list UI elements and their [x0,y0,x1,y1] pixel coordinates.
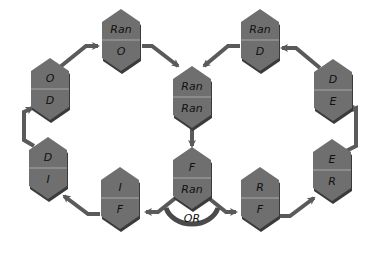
hex-node-ran-ran: RanRan [173,66,212,131]
hex-top-label: D [329,73,337,86]
nodes: RanRanFRanRanOODDIIFRanDDEERRF [29,9,353,232]
arrow-or-left [146,196,178,212]
hex-node-ran-d: RanD [241,9,280,74]
hex-top-label: R [256,181,264,194]
hex-top-label: Ran [181,80,202,93]
arrow-if-to-di [64,196,100,214]
hex-node-e-r: ER [313,139,352,204]
hex-node-d-i: DI [29,137,68,202]
or-label: OR [184,212,200,225]
arrow-od-to-rano [60,46,98,67]
hex-top-label: E [329,153,336,166]
cycle-diagram: OR RanRanFRanRanOODDIIFRanDDEERRF [0,0,380,253]
hex-bottom-label: E [330,95,337,108]
hex-bottom-label: Ran [181,102,202,115]
hex-top-label: Ran [249,23,270,36]
hex-node-r-f: RF [241,167,280,232]
hex-node-i-f: IF [101,167,140,232]
hex-bottom-label: F [117,203,124,216]
hex-bottom-label: F [257,203,264,216]
arrow-rano-to-ranran [142,46,178,66]
hex-node-o-d: OD [31,58,70,123]
arrow-rand-to-ranran [204,46,240,66]
hex-bottom-label: R [328,175,336,188]
hex-node-d-e: DE [314,59,353,124]
hex-top-label: F [189,161,196,174]
arrow-di-to-od [24,108,34,146]
arrow-rf-to-er [280,198,314,216]
hex-bottom-label: I [46,173,49,186]
hex-node-f-ran: FRan [173,147,212,212]
hex-top-label: O [46,72,55,85]
hex-bottom-label: O [117,45,126,58]
hex-bottom-label: D [46,94,54,107]
arrow-de-to-rand [282,48,320,68]
hex-bottom-label: D [256,45,264,58]
hex-bottom-label: Ran [181,183,202,196]
hex-node-ran-o: RanO [102,9,141,74]
hex-top-label: D [44,151,52,164]
hex-top-label: I [118,181,121,194]
hex-top-label: Ran [110,23,131,36]
